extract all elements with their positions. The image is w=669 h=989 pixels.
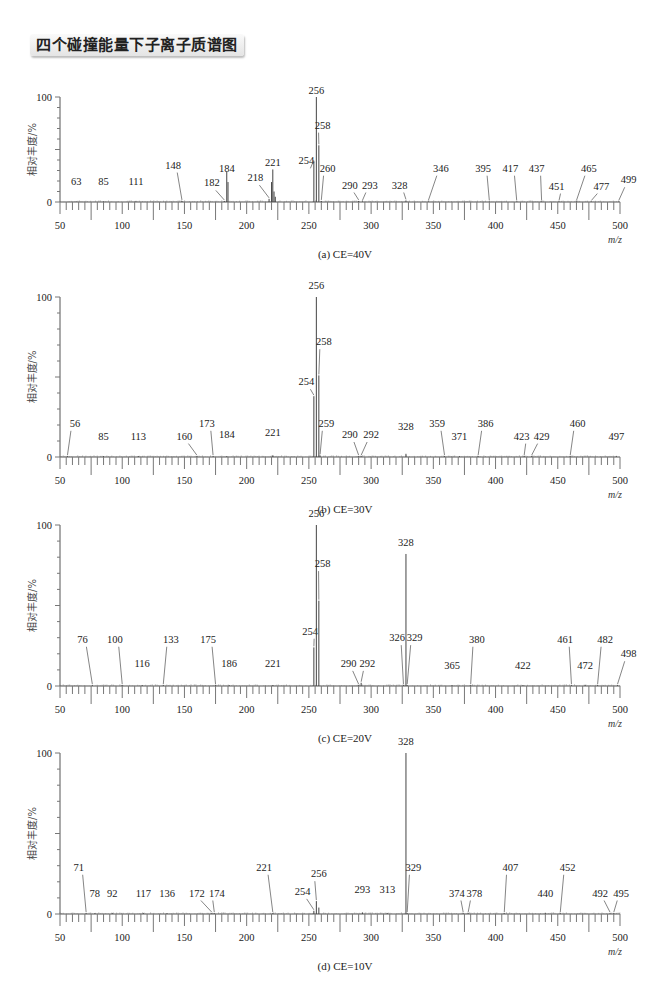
peak-label: 329 <box>406 862 422 873</box>
peak-label: 174 <box>209 888 226 899</box>
leader-line <box>407 875 409 912</box>
leader-line <box>201 901 212 913</box>
peak-label: 440 <box>537 888 553 899</box>
peak-label: 256 <box>311 868 327 879</box>
peak-label: 172 <box>189 888 205 899</box>
peak-label: 495 <box>613 888 629 899</box>
leader-line <box>461 901 463 913</box>
y-tick-label: 0 <box>47 909 52 920</box>
leader-line <box>268 875 273 912</box>
peak-label: 293 <box>355 884 371 895</box>
spectrum-panel-d: 0100相对丰度/%50100150200250300350400450500m… <box>0 0 669 989</box>
peak-label: 313 <box>379 884 395 895</box>
peak-label: 78 <box>90 888 101 899</box>
leader-line <box>604 901 610 913</box>
leader-line <box>504 875 506 912</box>
x-tick-label: 100 <box>114 932 130 943</box>
x-tick-label: 250 <box>301 932 317 943</box>
peak-label: 378 <box>467 888 483 899</box>
peak-label: 374 <box>449 888 466 899</box>
peak-label: 328 <box>398 736 414 747</box>
panel-caption: (d) CE=10V <box>318 960 373 973</box>
peak-label: 492 <box>592 888 608 899</box>
peak-label: 221 <box>256 862 272 873</box>
leader-line <box>315 881 317 900</box>
peak-label: 117 <box>136 888 151 899</box>
x-tick-label: 300 <box>363 932 379 943</box>
x-tick-label: 350 <box>425 932 441 943</box>
x-axis-label: m/z <box>608 946 622 957</box>
leader-line <box>213 901 215 913</box>
leader-line <box>560 875 563 912</box>
peak-label: 92 <box>107 888 118 899</box>
x-tick-label: 50 <box>55 932 66 943</box>
leader-line <box>614 901 617 913</box>
x-tick-label: 200 <box>239 932 255 943</box>
peak-label: 407 <box>503 862 519 873</box>
y-axis-label: 相对丰度/% <box>26 807 38 860</box>
peak-label: 71 <box>73 862 84 873</box>
peak-label: 136 <box>159 888 175 899</box>
leader-line <box>83 875 86 912</box>
peak-label: 452 <box>560 862 576 873</box>
x-tick-label: 400 <box>488 932 504 943</box>
leader-line <box>468 901 470 913</box>
x-tick-label: 450 <box>550 932 566 943</box>
peak-label: 254 <box>295 886 312 897</box>
y-tick-label: 100 <box>36 748 52 759</box>
leader-line <box>307 899 314 910</box>
x-tick-label: 150 <box>177 932 193 943</box>
x-tick-label: 500 <box>612 932 628 943</box>
